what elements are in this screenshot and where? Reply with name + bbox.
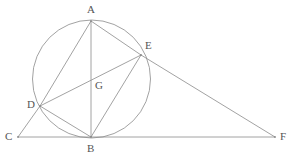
vertex-dot-C — [17, 136, 19, 138]
point-label-C: C — [5, 131, 12, 142]
point-label-A: A — [87, 4, 95, 15]
circumscribed-circle — [33, 20, 151, 138]
point-label-B: B — [87, 143, 94, 154]
geometry-figure: A E G D C B F — [0, 0, 294, 159]
point-label-E: E — [145, 40, 152, 51]
vertex-dot-A — [90, 20, 92, 22]
vertex-dot-F — [274, 136, 276, 138]
vertex-dot-B — [90, 136, 92, 138]
vertex-dot-D — [39, 105, 41, 107]
segment-C-D — [18, 106, 40, 137]
point-label-D: D — [27, 99, 35, 110]
geometry-canvas — [0, 0, 294, 159]
point-label-F: F — [280, 131, 286, 142]
vertex-dot-E — [140, 54, 142, 56]
point-label-G: G — [95, 80, 103, 91]
segment-E-F — [141, 55, 275, 137]
